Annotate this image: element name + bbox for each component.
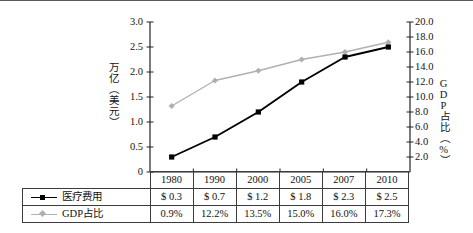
- data-table-wrapper: 198019902000200520072010医疗费用$ 0.3$ 0.7$ …: [22, 171, 409, 219]
- legend-cell[interactable]: GDP占比: [23, 206, 151, 223]
- right-tick-label: 12.0: [415, 76, 443, 87]
- table-row: GDP占比0.9%12.2%13.5%15.0%16.0%17.3%: [23, 206, 409, 223]
- right-tick-label: 20.0: [415, 16, 443, 27]
- table-cell-value: $ 0.7: [193, 189, 236, 206]
- legend-label: 医疗费用: [62, 192, 102, 203]
- table-cell-value: $ 1.2: [236, 189, 279, 206]
- left-tick-label: 2.5: [117, 41, 143, 52]
- table-cell-value: $ 0.3: [150, 189, 193, 206]
- table-cell-value: 12.2%: [193, 206, 236, 223]
- left-tick-label: 1.5: [117, 91, 143, 102]
- table-cell-value: 13.5%: [236, 206, 279, 223]
- right-tick-label: 16.0: [415, 46, 443, 57]
- table-header-year: 2000: [236, 172, 279, 189]
- legend-label: GDP占比: [62, 209, 103, 220]
- left-tick-label: 3.0: [117, 16, 143, 27]
- table-corner-cell: [23, 172, 151, 189]
- left-tick-label: 2.0: [117, 66, 143, 77]
- table-cell-value: 15.0%: [279, 206, 322, 223]
- right-tick-label: 2.0: [415, 151, 443, 162]
- right-tick-label: 6.0: [415, 121, 443, 132]
- table-cell-value: 0.9%: [150, 206, 193, 223]
- table-header-year: 2007: [322, 172, 365, 189]
- table-cell-value: $ 1.8: [279, 189, 322, 206]
- right-tick-label: 14.0: [415, 61, 443, 72]
- right-tick-label: 18.0: [415, 31, 443, 42]
- left-tick-label: 0.5: [117, 141, 143, 152]
- right-tick-label: 4.0: [415, 136, 443, 147]
- table-row: 医疗费用$ 0.3$ 0.7$ 1.2$ 1.8$ 2.3$ 2.5: [23, 189, 409, 206]
- table-header-year: 2005: [279, 172, 322, 189]
- data-table: 198019902000200520072010医疗费用$ 0.3$ 0.7$ …: [22, 171, 409, 223]
- right-tick-label: 10.0: [415, 91, 443, 102]
- legend-square-marker-icon: [31, 193, 57, 202]
- table-cell-value: $ 2.5: [365, 189, 408, 206]
- legend-cell[interactable]: 医疗费用: [23, 189, 151, 206]
- table-header-year: 1980: [150, 172, 193, 189]
- table-header-year: 2010: [365, 172, 408, 189]
- right-tick-label: 8.0: [415, 106, 443, 117]
- legend-diamond-marker-icon: [31, 210, 57, 219]
- table-cell-value: 16.0%: [322, 206, 365, 223]
- table-cell-value: $ 2.3: [322, 189, 365, 206]
- series-line-medical-expense: [172, 47, 389, 157]
- left-tick-label: 1.0: [117, 116, 143, 127]
- table-header-year: 1990: [193, 172, 236, 189]
- table-header-row: 198019902000200520072010: [23, 172, 409, 189]
- table-cell-value: 17.3%: [365, 206, 408, 223]
